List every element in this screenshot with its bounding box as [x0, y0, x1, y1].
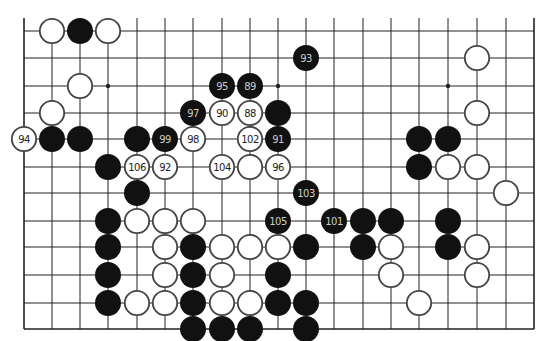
- white-stone: [238, 235, 262, 259]
- move-number: 98: [187, 134, 199, 145]
- white-stone: 94: [12, 127, 36, 151]
- white-stone: [379, 263, 403, 287]
- white-stone: [210, 291, 234, 315]
- white-stone: [465, 46, 489, 70]
- white-stone: [436, 155, 460, 179]
- white-stone: 92: [153, 155, 177, 179]
- black-stone: [406, 154, 432, 180]
- black-stone: 93: [293, 45, 319, 71]
- move-number: 106: [128, 162, 146, 173]
- move-number: 95: [216, 81, 228, 92]
- move-number: 97: [187, 108, 199, 119]
- black-stone: [180, 234, 206, 260]
- black-stone: [180, 316, 206, 341]
- white-stone: [40, 101, 64, 125]
- black-stone: [124, 126, 150, 152]
- white-stone: [153, 263, 177, 287]
- white-stone: 88: [238, 101, 262, 125]
- black-stone: [95, 208, 121, 234]
- black-stone: [95, 262, 121, 288]
- black-stone: [265, 100, 291, 126]
- white-stone: [40, 19, 64, 43]
- move-number: 89: [244, 81, 256, 92]
- white-stone: [238, 291, 262, 315]
- stones: 9395899790889499981029110692104961031051…: [12, 18, 518, 341]
- white-stone: 104: [210, 155, 234, 179]
- white-stone: 106: [125, 155, 149, 179]
- move-number: 101: [325, 216, 343, 227]
- white-stone: 90: [210, 101, 234, 125]
- go-board: 9395899790889499981029110692104961031051…: [0, 0, 553, 341]
- move-number: 102: [241, 134, 259, 145]
- black-stone: 89: [237, 73, 263, 99]
- star-point: [446, 84, 450, 88]
- move-number: 93: [300, 53, 312, 64]
- black-stone: [406, 126, 432, 152]
- white-stone: [465, 235, 489, 259]
- black-stone: [435, 126, 461, 152]
- black-stone: [95, 234, 121, 260]
- white-stone: [96, 19, 120, 43]
- black-stone: [67, 126, 93, 152]
- white-stone: [153, 235, 177, 259]
- white-stone: [465, 101, 489, 125]
- white-stone: [153, 291, 177, 315]
- black-stone: [237, 316, 263, 341]
- black-stone: 97: [180, 100, 206, 126]
- move-number: 99: [159, 134, 171, 145]
- white-stone: [125, 209, 149, 233]
- white-stone: [181, 209, 205, 233]
- black-stone: 99: [152, 126, 178, 152]
- star-point: [276, 84, 280, 88]
- white-stone: [465, 263, 489, 287]
- move-number: 103: [297, 188, 315, 199]
- white-stone: 98: [181, 127, 205, 151]
- black-stone: [95, 154, 121, 180]
- black-stone: [435, 234, 461, 260]
- black-stone: [293, 316, 319, 341]
- white-stone: [266, 235, 290, 259]
- black-stone: 91: [265, 126, 291, 152]
- star-point: [106, 84, 110, 88]
- move-number: 90: [216, 108, 228, 119]
- white-stone: 102: [238, 127, 262, 151]
- black-stone: [124, 180, 150, 206]
- black-stone: [293, 234, 319, 260]
- move-number: 104: [213, 162, 231, 173]
- white-stone: 96: [266, 155, 290, 179]
- white-stone: [494, 181, 518, 205]
- black-stone: [265, 262, 291, 288]
- black-stone: [209, 316, 235, 341]
- white-stone: [210, 235, 234, 259]
- black-stone: 103: [293, 180, 319, 206]
- move-number: 91: [272, 134, 284, 145]
- black-stone: [67, 18, 93, 44]
- white-stone: [153, 209, 177, 233]
- black-stone: 101: [321, 208, 347, 234]
- black-stone: [350, 208, 376, 234]
- black-stone: [95, 290, 121, 316]
- move-number: 94: [18, 134, 30, 145]
- move-number: 92: [159, 162, 171, 173]
- black-stone: 105: [265, 208, 291, 234]
- white-stone: [68, 74, 92, 98]
- black-stone: [350, 234, 376, 260]
- black-stone: [378, 208, 404, 234]
- white-stone: [465, 155, 489, 179]
- black-stone: [180, 290, 206, 316]
- white-stone: [210, 263, 234, 287]
- move-number: 105: [269, 216, 287, 227]
- black-stone: [265, 290, 291, 316]
- white-stone: [379, 235, 403, 259]
- black-stone: [293, 290, 319, 316]
- white-stone: [125, 291, 149, 315]
- white-stone: [407, 291, 431, 315]
- black-stone: 95: [209, 73, 235, 99]
- black-stone: [180, 262, 206, 288]
- move-number: 96: [272, 162, 284, 173]
- white-stone: [238, 155, 262, 179]
- move-number: 88: [244, 108, 256, 119]
- black-stone: [39, 126, 65, 152]
- black-stone: [435, 208, 461, 234]
